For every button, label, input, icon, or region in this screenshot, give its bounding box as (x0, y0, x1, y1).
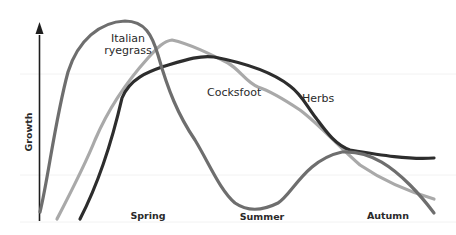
x-tick-spring: Spring (130, 210, 165, 221)
series-herbs-line (80, 57, 434, 219)
label-italian-ryegrass-line2: ryegrass (104, 44, 152, 57)
arrow-up-icon (36, 22, 44, 34)
growth-chart: Growth Italian ryegrass Cocksfoot Herbs … (0, 0, 456, 235)
y-axis (36, 22, 44, 221)
label-herbs: Herbs (302, 92, 335, 105)
series-italian-ryegrass-line (40, 21, 434, 213)
label-cocksfoot: Cocksfoot (207, 86, 262, 99)
y-axis-label: Growth (23, 112, 34, 151)
x-tick-summer: Summer (240, 211, 285, 222)
x-tick-autumn: Autumn (367, 210, 409, 221)
